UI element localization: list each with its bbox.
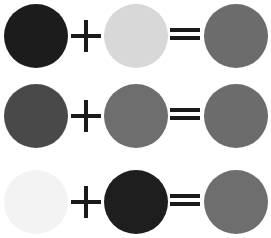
right-circle [104,84,168,148]
plus-icon [71,186,101,218]
result-circle [204,170,268,234]
equals-icon [170,28,200,40]
equals-icon [170,194,200,206]
plus-icon [71,100,101,132]
equals-icon [170,108,200,120]
left-circle [4,84,68,148]
equation-row-2 [0,84,271,150]
left-circle [4,4,68,68]
right-circle [104,4,168,68]
left-circle [4,170,68,234]
right-circle [104,170,168,234]
plus-icon [71,20,101,52]
equation-row-1 [0,4,271,70]
result-circle [204,4,268,68]
equation-row-3 [0,170,271,236]
result-circle [204,84,268,148]
